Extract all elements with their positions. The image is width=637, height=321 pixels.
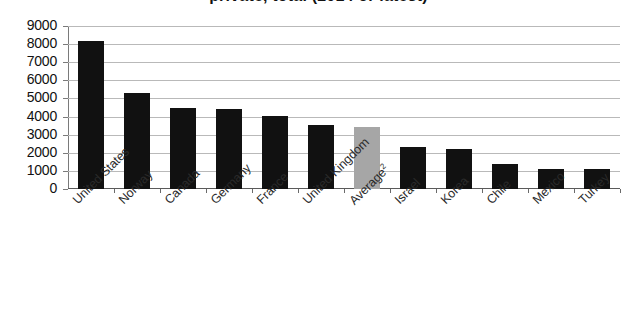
bar[interactable] [538,169,564,189]
x-tick-mark [390,189,391,193]
bar[interactable] [216,109,242,189]
bar-slot [298,26,344,189]
bar[interactable] [492,164,518,189]
bar-slot [390,26,436,189]
y-axis-tick-label: 7000 [0,53,57,69]
bar[interactable] [78,41,104,190]
y-axis-tick-label: 1000 [0,162,57,178]
x-tick-mark [436,189,437,193]
x-tick-mark [160,189,161,193]
bar[interactable] [124,93,150,189]
bar-slot [528,26,574,189]
bar-slot [114,26,160,189]
bar[interactable] [354,127,380,189]
bar[interactable] [446,149,472,189]
y-axis-tick-label: 2000 [0,144,57,160]
bar-slot [206,26,252,189]
bar-slot [344,26,390,189]
bar-chart: 9000800070006000500040003000200010000 Un… [0,0,637,321]
bar-slot [574,26,620,189]
bar-slot [252,26,298,189]
y-axis-tick-label: 8000 [0,35,57,51]
bar[interactable] [262,116,288,189]
x-tick-mark [114,189,115,193]
y-axis-tick-label: 4000 [0,108,57,124]
x-tick-mark [344,189,345,193]
y-axis-tick-label: 0 [0,180,57,196]
x-tick-mark [574,189,575,193]
y-axis-tick-label: 5000 [0,89,57,105]
x-tick-mark [528,189,529,193]
x-tick-mark [252,189,253,193]
x-tick-mark [206,189,207,193]
y-axis-tick-label: 9000 [0,17,57,33]
bar-series [68,26,620,189]
x-tick-mark [482,189,483,193]
bar[interactable] [308,125,334,189]
y-tick-mark [63,189,68,190]
bar-slot [482,26,528,189]
x-tick-mark [620,189,621,193]
plot-area [68,26,620,189]
bar[interactable] [400,147,426,189]
x-tick-mark [298,189,299,193]
bar-slot [436,26,482,189]
bar-slot [68,26,114,189]
bar-slot [160,26,206,189]
bar[interactable] [170,108,196,189]
y-axis-tick-label: 3000 [0,126,57,142]
bar[interactable] [584,169,610,189]
y-axis-tick-label: 6000 [0,71,57,87]
